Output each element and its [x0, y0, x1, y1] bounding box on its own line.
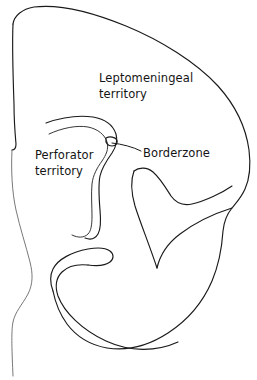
label-leptomeningeal-line2: territory [99, 87, 193, 102]
insula-cleft-upper [134, 168, 232, 204]
insula-cleft-lower [157, 208, 232, 268]
sylvian-fissure-upper [51, 248, 113, 291]
label-perforator-line1: Perforator [35, 148, 93, 162]
insula-cleft-descending [132, 171, 157, 268]
temporal-pole-lower [56, 265, 178, 350]
label-leptomeningeal-line1: Leptomeningeal [99, 71, 193, 85]
hemisphere-left-contour [12, 24, 16, 150]
label-perforator-line2: territory [35, 164, 93, 179]
brain-territory-figure: Leptomeningeal territory Perforator terr… [0, 0, 257, 380]
label-leptomeningeal-territory: Leptomeningeal territory [99, 71, 193, 102]
brainstem-tail [12, 150, 32, 376]
brain-outline-svg [0, 0, 257, 380]
label-borderzone: Borderzone [143, 146, 210, 161]
borderzone-junction-node [106, 137, 117, 146]
label-perforator-territory: Perforator territory [35, 148, 93, 179]
